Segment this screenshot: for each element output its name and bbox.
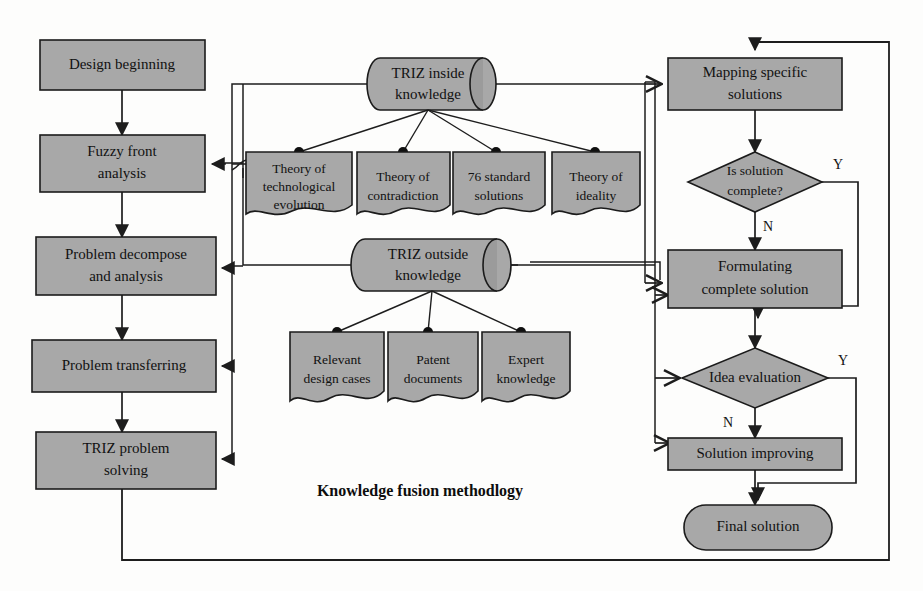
node-76-standard-solutions-label-line2: solutions bbox=[475, 188, 524, 203]
node-triz-inside-knowledge-label-line1: TRIZ inside bbox=[392, 65, 465, 81]
node-formulating-complete-solution-label-line1: Formulating bbox=[718, 258, 793, 274]
node-formulating-complete-solution-label-line2: complete solution bbox=[701, 281, 809, 297]
node-idea-evaluation[interactable]: Idea evaluation Y N bbox=[682, 348, 848, 430]
node-problem-decompose-label-line2: and analysis bbox=[89, 268, 163, 284]
node-theory-of-contradiction-label-line1: Theory of bbox=[376, 169, 430, 184]
node-theory-of-ideality-label-line2: ideality bbox=[576, 188, 617, 203]
node-theory-of-technological-evolution-label-line1: Theory of bbox=[272, 161, 326, 176]
node-triz-problem-solving[interactable]: TRIZ problem solving bbox=[36, 432, 216, 489]
node-theory-of-technological-evolution-label-line3: evolution bbox=[274, 197, 325, 212]
node-problem-transferring[interactable]: Problem transferring bbox=[32, 340, 216, 392]
node-patent-documents-label-line2: documents bbox=[404, 371, 463, 386]
node-theory-of-technological-evolution[interactable]: Theory of technological evolution bbox=[246, 152, 352, 214]
node-problem-decompose[interactable]: Problem decompose and analysis bbox=[36, 237, 216, 295]
branch-label-is-solution-complete-yes: Y bbox=[833, 157, 843, 172]
figure-caption: Knowledge fusion methodlogy bbox=[317, 482, 523, 500]
node-mapping-specific-solutions[interactable]: Mapping specific solutions bbox=[668, 58, 842, 110]
node-76-standard-solutions[interactable]: 76 standard solutions bbox=[453, 152, 545, 214]
node-triz-problem-solving-label-line1: TRIZ problem bbox=[82, 440, 169, 456]
node-relevant-design-cases-label-line2: design cases bbox=[303, 371, 370, 386]
node-triz-problem-solving-label-line2: solving bbox=[104, 462, 149, 478]
node-solution-improving-label: Solution improving bbox=[696, 445, 814, 461]
node-solution-improving[interactable]: Solution improving bbox=[668, 438, 842, 470]
knowledge-bus-lines bbox=[212, 84, 368, 459]
node-relevant-design-cases-label-line1: Relevant bbox=[313, 352, 361, 367]
node-triz-outside-knowledge-label-line2: knowledge bbox=[395, 267, 461, 283]
node-theory-of-ideality-label-line1: Theory of bbox=[569, 169, 623, 184]
node-theory-of-contradiction[interactable]: Theory of contradiction bbox=[357, 152, 450, 214]
node-theory-of-ideality[interactable]: Theory of ideality bbox=[552, 152, 640, 214]
node-is-solution-complete[interactable]: Is solution complete? Y N bbox=[688, 152, 843, 234]
node-theory-of-technological-evolution-label-line2: technological bbox=[263, 179, 336, 194]
node-76-standard-solutions-label-line1: 76 standard bbox=[468, 169, 531, 184]
node-mapping-specific-solutions-label-line2: solutions bbox=[728, 86, 782, 102]
node-problem-transferring-label: Problem transferring bbox=[62, 357, 187, 373]
node-final-solution-label: Final solution bbox=[717, 518, 800, 534]
outside-knowledge-tree-lines bbox=[332, 291, 526, 337]
node-is-solution-complete-label-line1: Is solution bbox=[727, 163, 784, 178]
node-is-solution-complete-label-line2: complete? bbox=[727, 183, 782, 198]
node-triz-outside-knowledge[interactable]: TRIZ outside knowledge bbox=[351, 239, 511, 291]
node-idea-evaluation-label: Idea evaluation bbox=[709, 369, 802, 385]
figure-canvas: Design beginning Fuzzy front analysis Pr… bbox=[0, 0, 923, 591]
node-fuzzy-front-analysis[interactable]: Fuzzy front analysis bbox=[40, 135, 205, 192]
node-fuzzy-front-analysis-label-line1: Fuzzy front bbox=[87, 143, 157, 159]
node-relevant-design-cases[interactable]: Relevant design cases bbox=[290, 332, 384, 402]
node-expert-knowledge-label-line2: knowledge bbox=[496, 371, 555, 386]
node-patent-documents-label-line1: Patent bbox=[416, 352, 450, 367]
branch-label-is-solution-complete-no: N bbox=[763, 219, 773, 234]
node-fuzzy-front-analysis-label-line2: analysis bbox=[98, 165, 146, 181]
node-design-beginning[interactable]: Design beginning bbox=[40, 40, 205, 90]
node-expert-knowledge-label-line1: Expert bbox=[508, 352, 544, 367]
node-patent-documents[interactable]: Patent documents bbox=[388, 332, 478, 402]
node-design-beginning-label: Design beginning bbox=[69, 56, 176, 72]
node-final-solution[interactable]: Final solution bbox=[684, 505, 832, 550]
node-triz-inside-knowledge-label-line2: knowledge bbox=[395, 86, 461, 102]
branch-label-idea-evaluation-no: N bbox=[723, 415, 733, 430]
node-formulating-complete-solution[interactable]: Formulating complete solution bbox=[668, 250, 842, 308]
knowledge-fusion-flowchart: Design beginning Fuzzy front analysis Pr… bbox=[0, 0, 923, 591]
node-triz-outside-knowledge-label-line1: TRIZ outside bbox=[388, 246, 469, 262]
node-problem-decompose-label-line1: Problem decompose bbox=[65, 246, 187, 262]
node-expert-knowledge[interactable]: Expert knowledge bbox=[482, 332, 570, 402]
node-theory-of-contradiction-label-line2: contradiction bbox=[367, 188, 438, 203]
branch-label-idea-evaluation-yes: Y bbox=[838, 353, 848, 368]
node-mapping-specific-solutions-label-line1: Mapping specific bbox=[703, 64, 808, 80]
node-triz-inside-knowledge[interactable]: TRIZ inside knowledge bbox=[367, 58, 496, 110]
inside-knowledge-tree-lines bbox=[294, 110, 600, 157]
